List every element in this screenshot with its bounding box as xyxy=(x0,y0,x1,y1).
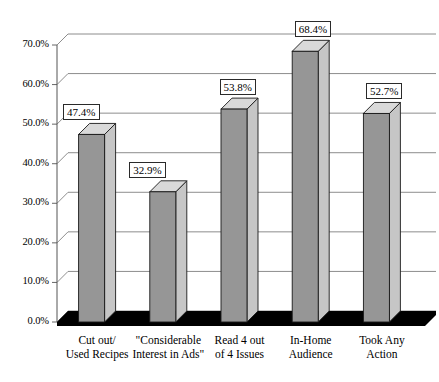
category-label-line: Took Any xyxy=(322,333,439,347)
bar-column xyxy=(221,98,258,322)
y-axis-label-70: 70.0% xyxy=(22,38,49,49)
y-axis-label-30: 30.0% xyxy=(22,196,49,207)
bar-value-label: 47.4% xyxy=(63,104,99,120)
y-axis-label-40: 40.0% xyxy=(22,157,49,168)
y-axis-label-10: 10.0% xyxy=(22,275,49,286)
bar-value-label: 52.7% xyxy=(366,83,402,99)
y-axis-label-60: 60.0% xyxy=(22,78,49,89)
chart-plot-area xyxy=(0,0,439,382)
bar-value-label: 53.8% xyxy=(220,79,256,95)
bar-column xyxy=(79,123,116,322)
x-axis-category-label: Took AnyAction xyxy=(322,333,439,361)
bar-column xyxy=(363,102,400,322)
category-label-line: Action xyxy=(322,347,439,361)
y-axis-label-20: 20.0% xyxy=(22,236,49,247)
y-axis-label-50: 50.0% xyxy=(22,117,49,128)
bar-chart: 0.0%10.0%20.0%30.0%40.0%50.0%60.0%70.0% … xyxy=(0,0,439,382)
bar-column xyxy=(292,40,329,322)
bar-value-label: 32.9% xyxy=(129,162,165,178)
y-axis-label-0: 0.0% xyxy=(28,315,49,326)
bar-value-label: 68.4% xyxy=(295,21,331,37)
bar-column xyxy=(150,181,187,322)
